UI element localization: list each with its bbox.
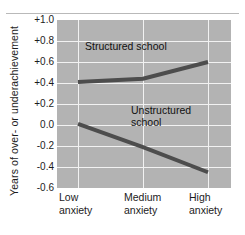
x-tick-line-2: anxiety [124,204,194,217]
y-tick-label: 0.0 [22,120,54,130]
y-tick-label: +0.4 [22,78,54,88]
y-axis-title: Years of over- or underachievement [7,11,21,211]
y-tick-label: +1.0 [22,15,54,25]
series-line-structured [78,62,208,82]
series-line-unstructured [78,124,208,172]
x-tick-label-high: High anxiety [189,191,245,216]
x-tick-line-1: Low [59,191,129,204]
x-tick-line-1: Medium [124,191,194,204]
x-tick-label-medium: Medium anxiety [124,191,194,216]
y-tick-label: -0.4 [22,162,54,172]
x-tick-label-low: Low anxiety [59,191,129,216]
annotation-structured-school: Structured school [85,40,167,52]
x-tick-line-2: anxiety [189,204,245,217]
annotation-unstructured-school: Unstructured school [131,104,191,128]
y-tick-label: +0.8 [22,36,54,46]
y-axis-tick-labels: +1.0 +0.8 +0.6 +0.4 +0.2 0.0 -0.2 -0.4 -… [22,0,54,235]
x-tick-line-2: anxiety [59,204,129,217]
y-tick-label: +0.2 [22,99,54,109]
chart-figure: Years of over- or underachievement +1.0 … [0,0,245,235]
y-tick-label: +0.6 [22,57,54,67]
x-tick-line-1: High [189,191,245,204]
y-tick-label: -0.2 [22,141,54,151]
x-axis-tick-labels: Low anxiety Medium anxiety High anxiety [57,191,231,231]
plot-area: Structured school Unstructured school [57,20,231,188]
y-tick-label: -0.6 [22,183,54,193]
